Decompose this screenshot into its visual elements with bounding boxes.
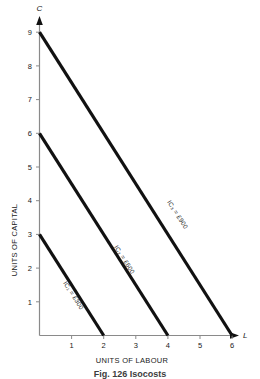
y-tick-label-4: 4 (28, 196, 32, 205)
y-tick-label-7: 7 (28, 95, 32, 104)
y-axis-arrowhead (36, 16, 43, 25)
x-tick-label-1: 1 (70, 341, 74, 350)
x-tick-label-4: 4 (166, 341, 170, 350)
isocost-line-labels: IC₁ = £300 IC₂ = £600 IC₃ = £900 (62, 199, 189, 311)
isocost-label-1: IC₁ = £300 (62, 280, 85, 311)
y-tick-label-2: 2 (28, 264, 32, 273)
x-axis-title: UNITS OF LABOUR (96, 356, 169, 365)
isocost-line-2 (40, 133, 168, 335)
x-tick-label-5: 5 (198, 341, 202, 350)
x-tick-label-3: 3 (134, 341, 138, 350)
isocost-figure: C L 1 2 3 4 5 6 7 8 9 (0, 0, 260, 379)
axis-label-labour: L (243, 331, 247, 340)
axis-label-capital: C (37, 4, 43, 13)
y-tick-label-9: 9 (28, 28, 32, 37)
y-axis-tick-labels: 1 2 3 4 5 6 7 8 9 (28, 28, 32, 307)
x-tick-label-2: 2 (102, 341, 106, 350)
y-tick-label-8: 8 (28, 62, 32, 71)
y-tick-label-5: 5 (28, 163, 32, 172)
x-axis-tick-labels: 1 2 3 4 5 6 (70, 341, 235, 350)
isocost-label-3: IC₃ = £900 (166, 199, 189, 230)
y-tick-label-3: 3 (28, 230, 32, 239)
isocost-chart: C L 1 2 3 4 5 6 7 8 9 (0, 0, 260, 379)
y-tick-label-6: 6 (28, 129, 32, 138)
x-tick-label-6: 6 (230, 341, 234, 350)
y-tick-label-1: 1 (28, 298, 32, 307)
figure-caption: Fig. 126 Isocosts (0, 368, 260, 379)
y-axis-title: UNITS OF CAPITAL (10, 204, 19, 277)
